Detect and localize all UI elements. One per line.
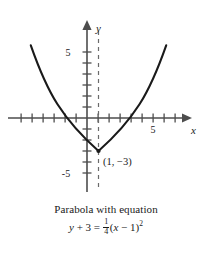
equation-inner-rest: − 1 — [118, 220, 135, 232]
graph-plot-area: y x 5 -5 5 (1, −3) — [0, 0, 212, 205]
caption-equation: y + 3 = 14(x − 1)2 — [0, 219, 212, 237]
vertex-coordinate-label: (1, −3) — [103, 156, 132, 168]
y-axis-label: y — [95, 22, 101, 34]
caption-line-1: Parabola with equation — [0, 203, 212, 217]
x-axis-arrowhead — [182, 113, 192, 122]
coordinate-plane-svg: y x 5 -5 5 (1, −3) — [0, 0, 212, 205]
x-tick-label-5: 5 — [151, 124, 156, 135]
y-axis-arrowhead — [82, 20, 91, 30]
x-axis-label: x — [190, 124, 196, 136]
equation-lhs-rest: + 3 = — [74, 220, 103, 232]
equation-exponent: 2 — [139, 219, 143, 228]
fraction-denominator: 4 — [103, 228, 109, 236]
equation-fraction: 14 — [103, 218, 109, 236]
y-axis — [82, 20, 91, 192]
figure-caption: Parabola with equation y + 3 = 14(x − 1)… — [0, 203, 212, 237]
y-tick-label-5: 5 — [66, 47, 71, 58]
parabola-figure: y x 5 -5 5 (1, −3) Parabola with equatio… — [0, 0, 212, 255]
vertex-point-marker — [96, 149, 100, 153]
y-tick-label-neg5: -5 — [62, 168, 70, 179]
